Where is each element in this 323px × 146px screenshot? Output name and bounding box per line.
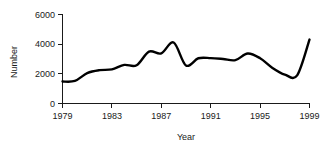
x-tick-label: 1999 [299, 111, 319, 121]
x-axis-title: Year [177, 132, 195, 142]
x-tick-label: 1979 [52, 111, 72, 121]
y-tick-label: 2000 [35, 69, 55, 79]
y-tick-label: 4000 [35, 39, 55, 49]
x-tick-label: 1983 [102, 111, 122, 121]
y-axis-title: Number [9, 46, 19, 78]
y-tick-label: 0 [50, 99, 55, 109]
line-chart: 6000 4000 2000 0 1979 1983 1987 1991 199… [0, 0, 323, 146]
chart-canvas: 6000 4000 2000 0 1979 1983 1987 1991 199… [0, 0, 323, 146]
x-tick-label: 1987 [151, 111, 171, 121]
y-tick-label: 6000 [35, 10, 55, 20]
x-tick-label: 1991 [201, 111, 221, 121]
x-tick-label: 1995 [250, 111, 270, 121]
